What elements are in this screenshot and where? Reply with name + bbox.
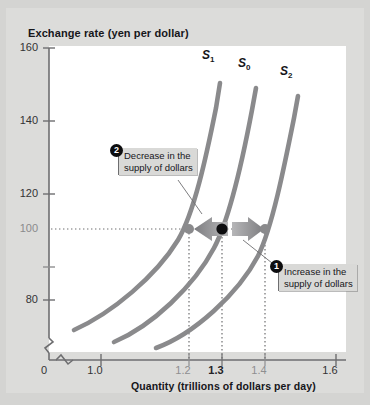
figure-container: Exchange rate (yen per dollar) 160 140 1…: [0, 0, 370, 405]
supply-curve-s1: [74, 83, 220, 330]
curve-label-s0-subscript: 0: [246, 63, 250, 72]
y-tick-label-100: 100: [4, 222, 38, 234]
x-axis: [49, 355, 346, 364]
chart-panel: Exchange rate (yen per dollar) 160 140 1…: [6, 8, 364, 393]
y-axis: [45, 48, 53, 360]
curve-label-s1: S1: [202, 48, 214, 64]
curve-label-s1-text: S: [202, 48, 210, 62]
y-tick-label-140: 140: [4, 114, 38, 126]
y-tick-label-80: 80: [4, 293, 38, 305]
curve-label-s1-subscript: 1: [210, 55, 214, 64]
x-tick-label-1-4: 1.4: [239, 364, 279, 376]
annotation-decrease-line1: Decrease in the: [124, 150, 193, 162]
y-tick-label-160: 160: [4, 41, 38, 53]
curve-label-s2-text: S: [280, 64, 288, 78]
annotation-decrease-line2: supply of dollars: [124, 162, 193, 174]
annotation-badge-1: 1: [270, 260, 283, 273]
x-tick-label-1-0: 1.0: [75, 364, 115, 376]
annotation-increase-line2: supply of dollars: [284, 278, 353, 290]
annotation-badge-2: 2: [110, 144, 123, 157]
x-tick-label-1-6: 1.6: [310, 364, 350, 376]
shift-arrow-right: [232, 217, 264, 241]
y-tick-label-120: 120: [4, 187, 38, 199]
x-tick-label-1-3: 1.3: [196, 364, 236, 376]
curve-label-s0-text: S: [238, 56, 246, 70]
annotation-callout-decrease: Decrease in the supply of dollars: [118, 148, 197, 175]
equilibrium-point-s0: [216, 223, 227, 234]
curve-label-s2-subscript: 2: [288, 71, 292, 80]
x-tick-label-0: 0: [24, 364, 64, 376]
y-axis-title: Exchange rate (yen per dollar): [28, 27, 189, 39]
equilibrium-point-s1: [184, 224, 194, 234]
annotation-callout-increase: Increase in the supply of dollars: [278, 264, 357, 291]
curve-label-s2: S2: [280, 64, 292, 80]
supply-curve-s0: [114, 88, 256, 342]
annotation-increase-line1: Increase in the: [284, 266, 353, 278]
chart-svg: [6, 8, 370, 405]
curve-label-s0: S0: [238, 56, 250, 72]
equilibrium-point-s2: [260, 224, 270, 234]
x-axis-title: Quantity (trillions of dollars per day): [131, 380, 316, 392]
